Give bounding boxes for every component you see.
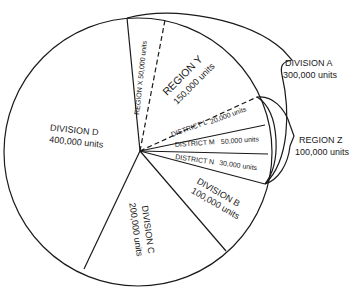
label-division-a-value: 300,000 units <box>283 70 338 80</box>
region-z-brace-inner <box>257 97 276 184</box>
label-division-a-name: DIVISION A <box>285 58 333 68</box>
label-region-x: REGION X 50,000 units <box>133 40 148 115</box>
label-region-z-value: 100,000 units <box>295 147 350 157</box>
boundary-x-y <box>140 20 165 151</box>
pie-chart: DIVISION D 400,000 units REGION X 50,000… <box>0 0 358 292</box>
label-district-m-value: 50,000 units <box>221 135 260 145</box>
label-region-z-name: REGION Z <box>299 135 343 145</box>
label-district-l-value: 20,000 units <box>209 105 248 125</box>
label-district-m-name: DISTRICT M <box>175 138 215 148</box>
label-district-n-name: DISTRICT N <box>175 153 215 165</box>
label-district-n-value: 30,000 units <box>219 159 258 171</box>
label-district-l-name: DISTRICT L <box>170 118 208 138</box>
boundary-m-n <box>140 151 268 154</box>
